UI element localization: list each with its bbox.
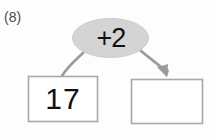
output-box-value bbox=[131, 79, 203, 124]
output-connector-line bbox=[140, 50, 163, 69]
problem-number-label: (8) bbox=[4, 9, 21, 25]
operation-ellipse bbox=[73, 19, 149, 58]
input-box-value: 17 bbox=[28, 76, 98, 122]
worksheet-problem-canvas: (8) +2 17 bbox=[0, 0, 216, 138]
input-connector-line bbox=[62, 52, 84, 76]
